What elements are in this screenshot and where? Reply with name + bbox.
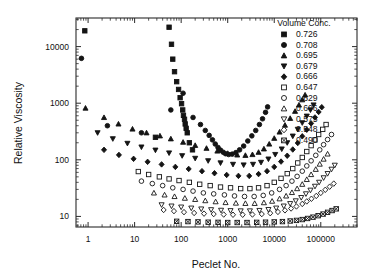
marker-triangle-down-open — [189, 206, 194, 211]
x-tick-label: 1 — [86, 234, 91, 244]
marker-diamond-open — [309, 196, 314, 202]
figure-container: 110100100010000100000 10100100010000 Vol… — [0, 0, 374, 279]
marker-triangle-open — [203, 198, 208, 203]
marker-triangle-down-filled — [95, 131, 100, 136]
y-axis-title: Relative Viscosity — [12, 81, 24, 164]
marker-circle-open — [321, 142, 326, 147]
marker-square-filled — [179, 101, 183, 105]
legend-entry-0.726[interactable]: 0.726 — [282, 29, 318, 39]
marker-square-open — [228, 186, 232, 190]
marker-triangle-open — [281, 106, 287, 111]
marker-triangle-down-filled — [125, 141, 130, 146]
marker-circle-filled — [241, 144, 246, 149]
marker-triangle-open — [193, 197, 198, 202]
marker-circle-filled — [250, 134, 255, 139]
marker-triangle-down-open — [169, 204, 174, 209]
marker-circle-filled — [265, 105, 270, 110]
marker-square-open — [300, 155, 304, 159]
marker-square-filled — [172, 70, 176, 74]
marker-triangle-down-filled — [110, 137, 115, 142]
x-tick-label: 1000 — [218, 234, 237, 244]
marker-triangle-open — [317, 162, 322, 167]
marker-triangle-down-open — [159, 203, 164, 208]
marker-circle-open — [170, 186, 175, 191]
marker-triangle-filled — [282, 123, 287, 128]
marker-square-filled — [171, 57, 175, 61]
marker-circle-filled — [203, 128, 208, 133]
legend-entry-label: 0.490 — [296, 135, 318, 145]
marker-square-filled — [182, 117, 186, 121]
x-axis-tick-labels: 110100100010000100000 — [86, 234, 336, 244]
marker-circle-filled — [260, 116, 265, 121]
marker-diamond-open — [289, 206, 294, 212]
legend-entry-0.575[interactable]: 0.575 — [281, 114, 317, 124]
marker-square-open — [177, 178, 181, 182]
marker-diamond-open — [294, 204, 299, 210]
marker-circle-open — [313, 153, 318, 158]
marker-circle-filled — [210, 138, 215, 143]
marker-triangle-down-filled — [180, 154, 185, 159]
marker-triangle-down-filled — [153, 148, 158, 153]
marker-circle-filled — [257, 122, 262, 127]
marker-diamond-filled — [145, 159, 150, 165]
marker-triangle-filled — [261, 146, 266, 151]
marker-triangle-filled — [83, 106, 88, 111]
marker-diamond-open — [327, 184, 332, 190]
legend-entry-0.606[interactable]: 0.606 — [281, 103, 317, 113]
legend-entry-0.666[interactable]: 0.666 — [281, 71, 317, 81]
marker-triangle-down-open — [293, 199, 298, 204]
marker-circle-filled — [237, 148, 242, 153]
marker-square-filled — [187, 141, 191, 145]
legend-entry-0.695[interactable]: 0.695 — [281, 50, 317, 60]
marker-square-open — [291, 166, 295, 170]
marker-diamond-filled — [199, 168, 204, 174]
marker-triangle-filled — [243, 153, 248, 158]
marker-triangle-open — [252, 201, 257, 206]
marker-square-filled — [190, 148, 194, 152]
legend-entry-label: 0.575 — [296, 114, 318, 124]
marker-square-open — [305, 149, 309, 153]
marker-diamond-open — [171, 208, 176, 214]
legend-title: Volume Conc. — [277, 18, 331, 28]
legend-entry-label: 0.606 — [296, 103, 318, 113]
marker-circle-open — [252, 194, 257, 199]
marker-triangle-down-filled — [290, 134, 295, 139]
marker-circle-filled — [105, 123, 110, 128]
marker-square-filled — [153, 135, 157, 139]
marker-triangle-open — [243, 201, 248, 206]
marker-square-open — [157, 175, 161, 179]
marker-square-open — [187, 180, 191, 184]
marker-circle-open — [232, 194, 237, 199]
marker-circle-open — [325, 137, 330, 142]
legend-entry-0.629[interactable]: 0.629 — [281, 93, 317, 103]
series-0.679 — [95, 103, 316, 168]
marker-triangle-filled — [204, 146, 209, 151]
marker-triangle-filled — [250, 152, 255, 157]
marker-circle-open — [281, 95, 286, 100]
marker-circle-open — [201, 191, 206, 196]
marker-triangle-filled — [181, 140, 186, 145]
marker-circle-filled — [198, 122, 203, 127]
marker-diamond-filled — [101, 147, 106, 153]
legend-entry-0.679[interactable]: 0.679 — [281, 61, 317, 71]
x-tick-label: 10 — [130, 234, 140, 244]
marker-circle-open — [300, 169, 305, 174]
marker-triangle-open — [162, 192, 167, 197]
marker-square-filled — [282, 32, 287, 37]
marker-square-filled — [185, 131, 189, 135]
marker-circle-open — [191, 189, 196, 194]
marker-triangle-down-open — [321, 176, 326, 181]
marker-triangle-down-filled — [139, 145, 144, 150]
marker-circle-filled — [169, 108, 174, 113]
marker-diamond-filled — [247, 173, 252, 179]
marker-square-open — [324, 122, 328, 126]
legend-entry-label: 0.629 — [296, 93, 318, 103]
marker-triangle-down-open — [281, 117, 287, 122]
marker-circle-open — [181, 187, 186, 192]
legend-entry-0.647[interactable]: 0.647 — [282, 82, 318, 92]
marker-circle-filled — [139, 130, 144, 135]
marker-diamond-filled — [290, 147, 295, 153]
marker-triangle-open — [261, 200, 266, 205]
legend-entry-0.708[interactable]: 0.708 — [281, 40, 317, 50]
marker-triangle-open — [284, 193, 289, 198]
